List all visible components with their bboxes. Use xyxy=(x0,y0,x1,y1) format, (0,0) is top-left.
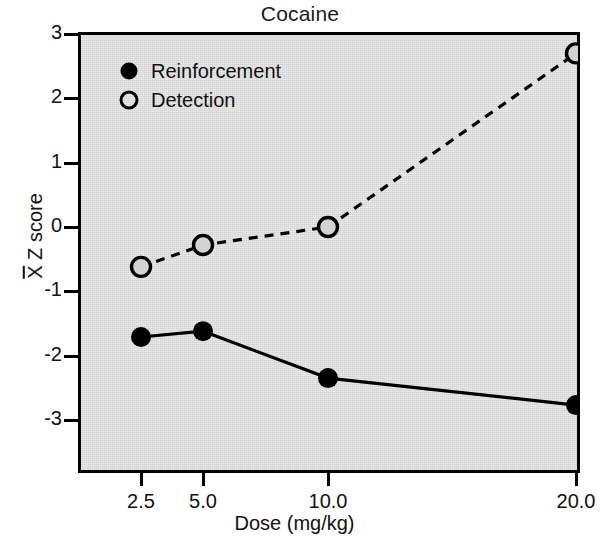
data-point-reinforcement-2.5 xyxy=(131,327,151,347)
y-tick--3 xyxy=(64,419,78,422)
data-point-reinforcement-20.0 xyxy=(566,395,586,415)
y-axis-title: X Z score xyxy=(23,193,47,279)
legend-item-reinforcement: Reinforcement xyxy=(118,56,281,85)
y-tick-label--1: -1 xyxy=(22,278,62,301)
open-circle-icon xyxy=(118,89,140,111)
y-tick-label--2: -2 xyxy=(22,343,62,366)
y-tick--1 xyxy=(64,290,78,293)
y-tick-3 xyxy=(64,33,78,36)
y-tick-label-2: 2 xyxy=(22,85,62,108)
data-point-reinforcement-5.0 xyxy=(193,321,213,341)
filled-circle-icon xyxy=(118,60,140,82)
y-axis-title-symbol: X xyxy=(23,265,46,278)
legend-label-reinforcement: Reinforcement xyxy=(151,61,281,81)
x-tick-5.0 xyxy=(202,473,205,486)
x-tick-label-2.5: 2.5 xyxy=(111,490,171,513)
data-point-reinforcement-10.0 xyxy=(318,368,338,388)
x-tick-label-20.0: 20.0 xyxy=(546,490,600,513)
y-tick-label-1: 1 xyxy=(22,150,62,173)
legend: Reinforcement Detection xyxy=(118,56,281,114)
data-point-detection-20.0 xyxy=(567,44,586,63)
data-point-detection-10.0 xyxy=(319,218,338,237)
y-tick-0 xyxy=(64,226,78,229)
data-point-detection-2.5 xyxy=(132,257,151,276)
x-tick-10.0 xyxy=(327,473,330,486)
x-tick-20.0 xyxy=(575,473,578,486)
series-line-reinforcement xyxy=(141,331,576,405)
x-axis-title: Dose (mg/kg) xyxy=(0,512,589,535)
x-tick-label-10.0: 10.0 xyxy=(298,490,358,513)
legend-label-detection: Detection xyxy=(151,90,236,110)
legend-item-detection: Detection xyxy=(118,85,281,114)
x-tick-label-5.0: 5.0 xyxy=(173,490,233,513)
y-tick-label--3: -3 xyxy=(22,407,62,430)
y-tick-1 xyxy=(64,162,78,165)
y-axis-title-rest: Z score xyxy=(24,193,46,265)
series-reinforcement xyxy=(131,321,586,415)
y-tick-2 xyxy=(64,97,78,100)
y-tick--2 xyxy=(64,355,78,358)
x-tick-2.5 xyxy=(140,473,143,486)
y-tick-label-3: 3 xyxy=(22,21,62,44)
data-point-detection-5.0 xyxy=(194,236,213,255)
